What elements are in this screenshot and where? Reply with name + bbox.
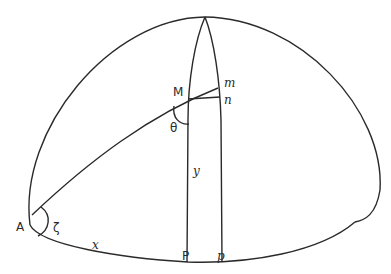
angle-zeta-arc bbox=[38, 207, 48, 236]
label-x: x bbox=[92, 238, 99, 252]
label-M: M bbox=[173, 85, 183, 99]
label-A: A bbox=[16, 220, 25, 234]
diagram: A M m n θ ζ y x P p bbox=[0, 0, 391, 274]
label-m: m bbox=[224, 76, 235, 90]
arc-A-to-m bbox=[32, 88, 218, 215]
label-zeta: ζ bbox=[53, 221, 60, 235]
segment-M-n bbox=[188, 97, 220, 99]
equator-arc bbox=[30, 222, 355, 262]
meridian-P bbox=[187, 17, 205, 262]
label-y: y bbox=[192, 164, 200, 178]
label-n: n bbox=[224, 93, 232, 107]
label-theta: θ bbox=[170, 121, 177, 135]
label-p: p bbox=[217, 249, 225, 263]
label-P: P bbox=[182, 249, 189, 263]
meridian-p bbox=[205, 17, 222, 262]
hemisphere-outline bbox=[29, 17, 380, 225]
